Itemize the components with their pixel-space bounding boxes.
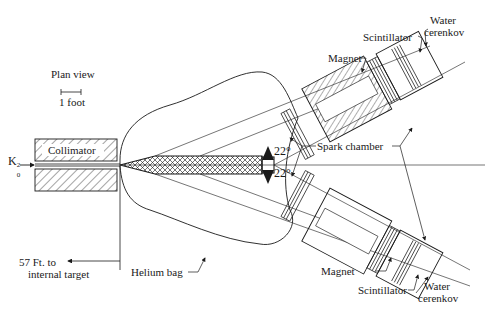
collimator-label: Collimator <box>48 144 96 156</box>
scale-bar <box>61 89 81 95</box>
magnet-lower-label: Magnet <box>321 265 355 277</box>
beam-label: K20 <box>8 155 23 167</box>
target-distance-line1: 57 Ft. to <box>19 256 89 268</box>
scintillator-lower-label: Scintillator <box>358 284 407 296</box>
target-distance-label: 57 Ft. to internal target <box>19 256 89 280</box>
water-cerenkov-upper-line2: cerenkov <box>424 26 464 38</box>
water-cerenkov-lower-line1: Water <box>418 280 458 292</box>
beam-symbol: K <box>8 154 17 168</box>
scale-bar-label: 1 foot <box>59 96 85 108</box>
helium-bag-label: Helium bag <box>131 266 183 278</box>
water-cerenkov-lower-line2: cerenkov <box>418 292 458 304</box>
angle-lower-label: 22° <box>274 167 291 179</box>
spark-chamber-label: Spark chamber <box>317 140 383 152</box>
target-distance-line2: internal target <box>19 268 89 280</box>
water-cerenkov-lower-label: Water cerenkov <box>418 280 458 304</box>
scintillator-upper-label: Scintillator <box>363 31 412 43</box>
water-cerenkov-upper-label: Water cerenkov <box>424 14 464 38</box>
magnet-upper-label: Magnet <box>328 52 362 64</box>
angle-upper-label: 22° <box>274 145 291 157</box>
plan-view-title: Plan view <box>51 68 95 80</box>
water-cerenkov-upper-line1: Water <box>424 14 464 26</box>
beam-subscript: 0 <box>17 169 21 181</box>
